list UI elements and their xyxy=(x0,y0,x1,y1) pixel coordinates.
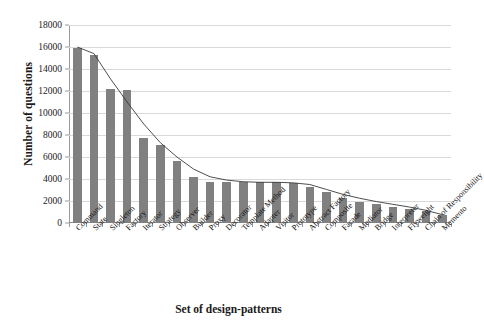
y-tick-label: 4000 xyxy=(43,174,62,184)
bar xyxy=(90,55,99,223)
y-axis-line xyxy=(69,25,70,223)
plot-area xyxy=(69,25,451,223)
y-tick-label: 2000 xyxy=(43,196,62,206)
y-tick-label: 18000 xyxy=(38,20,62,30)
gridline xyxy=(69,47,451,48)
y-tick-label: 10000 xyxy=(38,108,62,118)
bar xyxy=(73,48,82,223)
y-tick-label: 14000 xyxy=(38,64,62,74)
y-tick-label: 16000 xyxy=(38,42,62,52)
y-tick-label: 6000 xyxy=(43,152,62,162)
gridline xyxy=(69,25,451,26)
y-tick-label: 8000 xyxy=(43,130,62,140)
y-tick-label: 12000 xyxy=(38,86,62,96)
x-axis-title: Set of design-patterns xyxy=(0,303,457,315)
y-axis-tick-labels: 0200040006000800010000120001400016000180… xyxy=(0,25,69,223)
gridline xyxy=(69,69,451,70)
x-axis-tick-labels: CommandStateSingletonFactoryIteratorStra… xyxy=(0,226,457,304)
bar xyxy=(106,89,115,223)
